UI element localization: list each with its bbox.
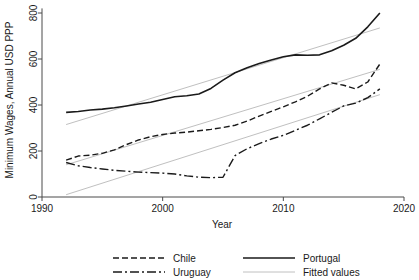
x-tick-label-1990: 1990: [31, 203, 54, 214]
y-axis-title: Minimum Wages, Annual USD PPP: [4, 21, 15, 178]
y-tick-label-0: 0: [28, 194, 39, 200]
series-line-uruguay: [66, 89, 380, 178]
legend-label-fitted-values: Fitted values: [303, 267, 360, 278]
y-tick-label-600: 600: [28, 50, 39, 67]
legend-label-uruguay: Uruguay: [173, 267, 211, 278]
plot-area: [66, 13, 380, 195]
legend-label-chile: Chile: [173, 253, 196, 264]
y-tick-label-200: 200: [28, 142, 39, 159]
chart-legend: ChileUruguayPortugalFitted values: [113, 253, 360, 278]
minimum-wages-line-chart: 19902000201020200200400600800 Minimum Wa…: [0, 0, 419, 280]
chart-container: 19902000201020200200400600800 Minimum Wa…: [0, 0, 419, 280]
x-tick-label-2020: 2020: [393, 203, 416, 214]
x-axis-title: Year: [212, 219, 233, 230]
y-tick-label-800: 800: [28, 4, 39, 21]
series-line-portugal: [66, 13, 380, 112]
legend-label-portugal: Portugal: [303, 253, 340, 264]
y-tick-label-400: 400: [28, 96, 39, 113]
x-tick-label-2000: 2000: [152, 203, 175, 214]
x-tick-label-2010: 2010: [272, 203, 295, 214]
